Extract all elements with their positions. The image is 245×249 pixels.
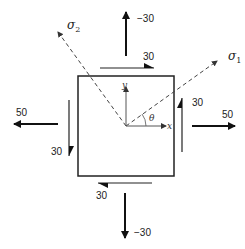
theta-label: θ — [149, 113, 155, 123]
bottom-shear-label: 30 — [96, 190, 108, 201]
stress-element-diagram: −30 −30 50 50 30 30 30 30 σ2 σ1 y x θ — [0, 0, 245, 249]
sigma1-axis — [126, 61, 217, 126]
right-normal-label: 50 — [222, 109, 234, 120]
sigma2-axis — [58, 32, 126, 126]
top-normal-label: −30 — [137, 13, 154, 24]
y-axis-label: y — [121, 80, 128, 90]
right-shear-label: 30 — [192, 97, 204, 108]
left-normal-label: 50 — [16, 107, 28, 118]
left-shear-label: 30 — [51, 146, 63, 157]
top-shear-label: 30 — [143, 51, 155, 62]
sigma2-label: σ2 — [67, 18, 80, 34]
sigma1-label: σ1 — [228, 49, 241, 65]
x-axis-label: x — [167, 121, 172, 131]
bottom-normal-label: −30 — [134, 227, 151, 238]
theta-arc — [142, 114, 146, 126]
